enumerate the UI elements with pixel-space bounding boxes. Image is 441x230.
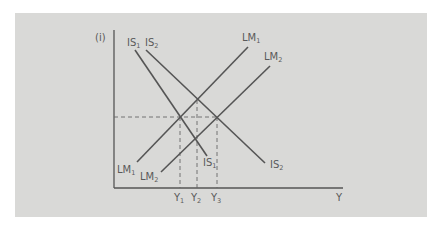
is2-curve bbox=[146, 50, 265, 163]
is1-curve bbox=[135, 50, 207, 156]
is2-label-top: IS2 bbox=[145, 37, 158, 50]
is-lm-diagram: (i) Y IS1 IS2 IS1 IS2 LM1 LM2 LM1 LM2 Y1… bbox=[0, 0, 441, 230]
y2-label: Y2 bbox=[190, 192, 201, 205]
is1-label-bottom: IS1 bbox=[203, 157, 216, 170]
lm2-curve bbox=[161, 66, 270, 172]
is1-label-top: IS1 bbox=[127, 37, 140, 50]
y3-label: Y3 bbox=[210, 192, 221, 205]
y-axis-label: (i) bbox=[95, 32, 106, 43]
x-axis-label: Y bbox=[335, 192, 343, 203]
y1-label: Y1 bbox=[173, 192, 184, 205]
is2-label-bottom: IS2 bbox=[270, 159, 283, 172]
lm2-label-bottom: LM2 bbox=[140, 171, 158, 184]
lm2-label-top: LM2 bbox=[264, 51, 282, 64]
lm1-label-top: LM1 bbox=[242, 32, 260, 45]
lm1-label-bottom: LM1 bbox=[117, 164, 135, 177]
